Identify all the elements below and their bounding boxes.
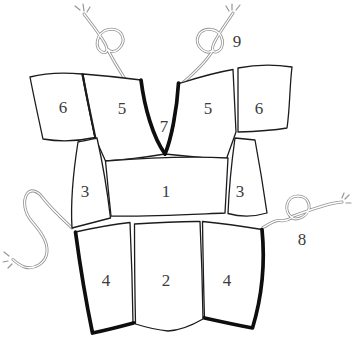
panel-1-label: 1 [162,182,171,201]
cord-8-label: 8 [298,230,307,249]
panel-3-right-label: 3 [236,182,245,201]
panel-5-left-label: 5 [118,99,127,118]
panel-2-label: 2 [162,271,171,290]
cord-frayed-end-left [3,252,12,268]
panel-7-label: 7 [160,117,169,136]
panel-6-right-label: 6 [255,99,264,118]
side-cord-left [13,191,72,268]
side-cord-left-core [13,191,72,268]
pattern-drawing: 6 5 7 5 6 3 1 3 4 2 4 8 9 [0,0,355,348]
cord-frayed-end-top-left [75,4,90,12]
panel-4-left-label: 4 [102,271,111,290]
panel-4-right-shape [203,222,264,329]
panel-5-right-label: 5 [204,99,213,118]
panel-6-left-label: 6 [59,98,68,117]
armor-pattern-diagram: 6 5 7 5 6 3 1 3 4 2 4 8 9 [0,0,355,348]
cord-9-label: 9 [233,32,242,51]
cord-frayed-end-top-right [226,4,240,11]
panel-4-right-label: 4 [223,271,232,290]
side-cord-right [263,196,342,228]
panel-6-right-shape [238,65,292,132]
panel-3-right-shape [228,138,267,216]
panel-3-left-label: 3 [81,182,90,201]
